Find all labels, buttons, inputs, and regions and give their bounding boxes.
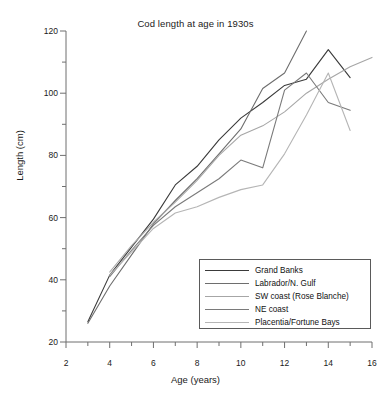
legend-item: Grand Banks	[200, 264, 370, 277]
legend-swatch-labrador-n-gulf	[205, 283, 249, 284]
legend-swatch-ne-coast	[205, 309, 249, 310]
series-line	[110, 73, 350, 275]
legend-label: NE coast	[255, 305, 288, 314]
legend-swatch-sw-coast	[205, 296, 249, 297]
legend-label: Grand Banks	[255, 266, 303, 275]
series-line	[110, 73, 350, 277]
legend-item: Labrador/N. Gulf	[200, 277, 370, 290]
series-line	[110, 57, 372, 272]
chart-legend: Grand Banks Labrador/N. Gulf SW coast (R…	[199, 259, 371, 329]
legend-swatch-placentia-fortune-bays	[205, 322, 249, 323]
plot-area	[0, 0, 391, 406]
legend-item: Placentia/Fortune Bays	[200, 316, 370, 329]
legend-item: SW coast (Rose Blanche)	[200, 290, 370, 303]
legend-item: NE coast	[200, 303, 370, 316]
legend-label: SW coast (Rose Blanche)	[255, 292, 349, 301]
chart-figure: Cod length at age in 1930s Length (cm) A…	[0, 0, 391, 406]
legend-label: Placentia/Fortune Bays	[255, 318, 340, 327]
legend-label: Labrador/N. Gulf	[255, 279, 316, 288]
legend-swatch-grand-banks	[205, 270, 249, 271]
